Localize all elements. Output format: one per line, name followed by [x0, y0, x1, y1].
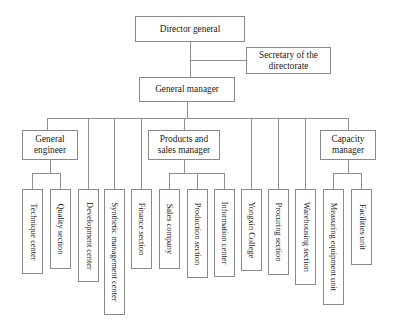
node-information-center[interactable]: Information center [214, 189, 235, 277]
connector-to-facilities-unit [361, 173, 362, 189]
connector-drop-products-sales [184, 118, 185, 130]
connector-capacity-bar [333, 173, 361, 174]
node-procuring-section[interactable]: Procuring section [268, 189, 289, 275]
connector-drop-capacity [348, 118, 349, 130]
connector-to-technique-center [32, 173, 33, 189]
node-secretary-of-the-directorate-label: Secretary of the directorate [259, 50, 318, 72]
node-director-general-label: Director general [160, 24, 221, 35]
node-synthetic-management-center-label: Synthetic management center [110, 202, 120, 301]
node-facilities-unit-label: Facilities unit [357, 204, 367, 250]
connector-drop-development-center [88, 118, 89, 189]
connector-to-information-center [224, 173, 225, 189]
node-general-manager-label: General manager [155, 84, 219, 95]
connector-general-engineer-bar [32, 173, 61, 174]
node-technique-center[interactable]: Technique center [22, 189, 43, 274]
node-yongxin-college[interactable]: Yongxin College [241, 189, 262, 271]
connector-drop-warehousing-section [305, 118, 306, 189]
connector-products-sales-stem [184, 160, 185, 173]
node-warehousing-section-label: Warehousing section [301, 202, 311, 272]
node-development-center-label: Development center [84, 202, 94, 270]
node-finance-section[interactable]: Finance section [131, 189, 152, 269]
node-facilities-unit[interactable]: Facilities unit [351, 189, 372, 265]
node-measuring-equipment-unit[interactable]: Measuring equipment unit [323, 189, 344, 305]
node-measuring-equipment-unit-label: Measuring equipment unit [329, 203, 339, 291]
node-director-general[interactable]: Director general [135, 16, 245, 42]
org-chart: Director general Secretary of the direct… [0, 0, 394, 335]
connector-to-sales-company [169, 173, 170, 189]
node-sales-company-label: Sales company [165, 204, 175, 254]
node-general-engineer-label: General engineer [34, 134, 66, 156]
node-development-center[interactable]: Development center [78, 189, 99, 282]
connector-secretary-branch [190, 60, 246, 61]
connector-drop-synthetic-management-center [114, 118, 115, 189]
node-general-engineer[interactable]: General engineer [22, 130, 78, 160]
node-products-and-sales-manager-label: Products and sales manager [158, 134, 210, 156]
node-production-section-label: Production section [193, 202, 203, 265]
node-production-section[interactable]: Production section [187, 189, 208, 278]
node-warehousing-section[interactable]: Warehousing section [295, 189, 316, 285]
connector-to-production-section [197, 173, 198, 189]
node-quality-section-label: Quality section [56, 204, 66, 255]
node-quality-section[interactable]: Quality section [50, 189, 71, 269]
node-general-manager[interactable]: General manager [139, 77, 235, 102]
connector-drop-procuring-section [278, 118, 279, 189]
node-synthetic-management-center[interactable]: Synthetic management center [104, 189, 125, 315]
node-capacity-manager-label: Capacity manager [331, 134, 364, 156]
node-technique-center-label: Technique center [28, 203, 38, 260]
connector-to-quality-section [60, 173, 61, 189]
connector-to-measuring-equipment-unit [333, 173, 334, 189]
node-procuring-section-label: Procuring section [274, 203, 284, 262]
connector-general-engineer-stem [50, 160, 51, 173]
node-yongxin-college-label: Yongxin College [247, 202, 257, 259]
connector-drop-general-engineer [47, 118, 48, 130]
node-products-and-sales-manager[interactable]: Products and sales manager [148, 130, 220, 160]
node-finance-section-label: Finance section [137, 203, 147, 255]
node-information-center-label: Information center [220, 202, 230, 265]
connector-main-bus [47, 118, 348, 119]
connector-manager-to-bus [187, 102, 188, 118]
connector-drop-finance-section [141, 118, 142, 189]
node-secretary-of-the-directorate[interactable]: Secretary of the directorate [246, 47, 331, 74]
connector-drop-yongxin-college [251, 118, 252, 189]
connector-capacity-stem [348, 160, 349, 173]
node-sales-company[interactable]: Sales company [159, 189, 180, 269]
node-capacity-manager[interactable]: Capacity manager [320, 130, 376, 160]
